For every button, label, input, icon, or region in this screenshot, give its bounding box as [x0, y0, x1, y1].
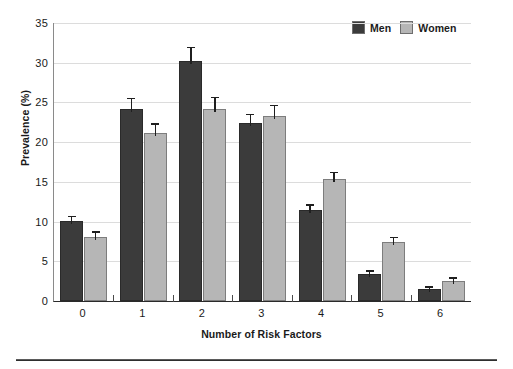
- error-bar-stem: [369, 272, 370, 277]
- error-bar-cap: [306, 204, 314, 205]
- x-tick-label: 0: [63, 307, 103, 319]
- bar-women-3: [263, 116, 286, 301]
- x-axis-title: Number of Risk Factors: [53, 328, 470, 340]
- error-bar-stem: [131, 99, 132, 112]
- y-tick-label: 15: [26, 176, 48, 188]
- bar-group: [411, 23, 471, 301]
- error-bar-stem: [453, 279, 454, 284]
- bar-men-1: [120, 109, 143, 301]
- y-axis-tick-labels: 05101520253035: [22, 0, 48, 369]
- bar-group: [233, 23, 293, 301]
- y-tick-label: 10: [26, 216, 48, 228]
- y-tick-label: 30: [26, 57, 48, 69]
- bar-men-4: [299, 210, 322, 301]
- x-tick-label: 2: [182, 307, 222, 319]
- bar-group: [292, 23, 352, 301]
- y-tick-label: 35: [26, 17, 48, 29]
- error-bar-stem: [333, 173, 334, 182]
- bar-women-4: [323, 179, 346, 301]
- figure: Men Women Prevalence (%) 05101520253035 …: [0, 0, 513, 369]
- x-axis-tick-labels: 0123456: [53, 307, 470, 325]
- error-bar-stem: [274, 106, 275, 119]
- bar-group: [54, 23, 114, 301]
- bar-men-0: [60, 221, 83, 301]
- footer-divider: [16, 359, 497, 361]
- error-bar-cap: [425, 286, 433, 287]
- error-bar-cap: [187, 47, 195, 48]
- error-bar-cap: [330, 172, 338, 173]
- bar-men-2: [179, 61, 202, 301]
- y-tick-label: 20: [26, 136, 48, 148]
- error-bar-stem: [71, 217, 72, 224]
- x-tick-label: 3: [242, 307, 282, 319]
- error-bar-stem: [95, 233, 96, 240]
- error-bar-stem: [393, 238, 394, 245]
- error-bar-stem: [214, 98, 215, 111]
- x-tick-label: 4: [301, 307, 341, 319]
- error-bar-cap: [449, 277, 457, 278]
- bar-men-3: [239, 123, 262, 301]
- error-bar-cap: [390, 237, 398, 238]
- error-bar-stem: [309, 206, 310, 214]
- y-tick-label: 25: [26, 96, 48, 108]
- plot-area: [53, 23, 471, 302]
- error-bar-cap: [270, 105, 278, 106]
- bar-men-5: [358, 274, 381, 301]
- bar-women-1: [144, 133, 167, 301]
- error-bar-cap: [127, 98, 135, 99]
- x-tick-label: 1: [122, 307, 162, 319]
- error-bar-stem: [190, 48, 191, 64]
- error-bar-cap: [366, 270, 374, 271]
- y-tick-label: 0: [26, 295, 48, 307]
- bar-women-2: [203, 109, 226, 301]
- error-bar-cap: [211, 97, 219, 98]
- error-bar-stem: [429, 288, 430, 293]
- bar-series-container: [54, 23, 471, 301]
- y-tick-label: 5: [26, 255, 48, 267]
- bar-women-5: [382, 242, 405, 301]
- x-tick-label: 5: [361, 307, 401, 319]
- bar-group: [352, 23, 412, 301]
- bar-group: [114, 23, 174, 301]
- bar-women-0: [84, 237, 107, 301]
- error-bar-cap: [92, 231, 100, 232]
- error-bar-cap: [246, 114, 254, 115]
- error-bar-stem: [155, 125, 156, 137]
- x-tick-label: 6: [420, 307, 460, 319]
- error-bar-stem: [250, 115, 251, 126]
- error-bar-cap: [151, 123, 159, 124]
- bar-group: [173, 23, 233, 301]
- error-bar-cap: [68, 216, 76, 217]
